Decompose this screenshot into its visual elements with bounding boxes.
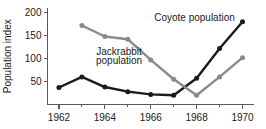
data-point-jackrabbit-population-1967	[171, 93, 176, 98]
data-point-jackrabbit-population-1966	[148, 92, 153, 97]
chart-plot-area: 5010015020019621964196619681970Populatio…	[0, 0, 266, 129]
data-point-jackrabbit-population-1970	[240, 19, 245, 24]
data-point-coyote-population-1965	[125, 37, 130, 42]
population-index-line-chart: 5010015020019621964196619681970Populatio…	[0, 0, 266, 129]
data-point-jackrabbit-population-1965	[125, 89, 130, 94]
series-label-coyote-population-0: Coyote population	[154, 12, 235, 23]
x-tick-label-1968: 1968	[186, 112, 209, 123]
data-point-coyote-population-1963	[79, 23, 84, 28]
data-point-coyote-population-1964	[102, 34, 107, 39]
data-point-jackrabbit-population-1969	[217, 46, 222, 51]
data-point-jackrabbit-population-1964	[102, 85, 107, 90]
data-point-jackrabbit-population-1968	[194, 76, 199, 81]
y-tick-label-50: 50	[30, 76, 42, 87]
data-point-coyote-population-1969	[217, 74, 222, 79]
x-tick-label-1962: 1962	[48, 112, 71, 123]
data-point-coyote-population-1970	[240, 55, 245, 60]
data-point-coyote-population-1966	[148, 57, 153, 62]
x-tick-label-1966: 1966	[140, 112, 163, 123]
series-label-population-2: population	[96, 55, 142, 66]
x-tick-label-1964: 1964	[94, 112, 117, 123]
y-tick-label-150: 150	[25, 30, 42, 41]
data-point-jackrabbit-population-1963	[79, 74, 84, 79]
data-point-coyote-population-1967	[171, 77, 176, 82]
y-axis-title: Population index	[2, 19, 13, 93]
y-tick-label-200: 200	[25, 7, 42, 18]
x-tick-label-1970: 1970	[231, 112, 254, 123]
y-tick-label-100: 100	[25, 53, 42, 64]
data-point-jackrabbit-population-1962	[56, 85, 61, 90]
data-point-coyote-population-1968	[194, 93, 199, 98]
